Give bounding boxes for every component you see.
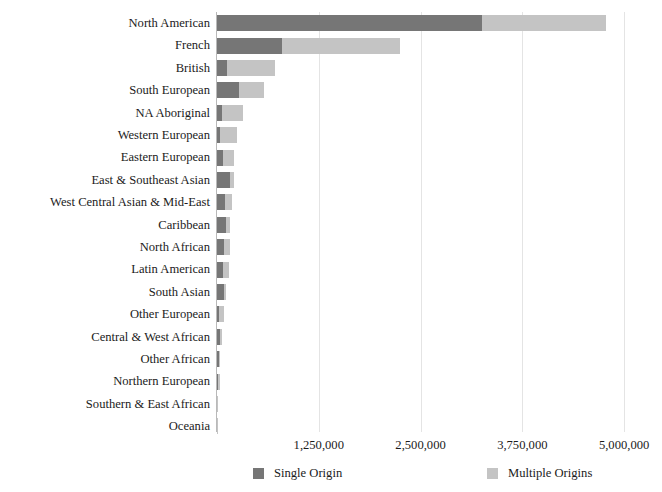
legend-item[interactable]: Multiple Origins [487, 462, 592, 484]
stacked-bar[interactable] [217, 127, 237, 143]
bar-segment-multiple-origins[interactable] [220, 329, 222, 345]
stacked-bar[interactable] [217, 329, 222, 345]
bar-segment-multiple-origins[interactable] [230, 172, 234, 188]
stacked-bar[interactable] [217, 194, 232, 210]
legend-label: Multiple Origins [508, 463, 592, 483]
stacked-bar[interactable] [217, 105, 243, 121]
category-label: East & Southeast Asian [10, 169, 210, 191]
stacked-bar[interactable] [217, 374, 220, 390]
stacked-bar[interactable] [217, 82, 264, 98]
bar-segment-single-origin[interactable] [217, 284, 224, 300]
bar-segment-multiple-origins[interactable] [239, 82, 264, 98]
category-label: Eastern European [10, 146, 210, 168]
bar-segment-multiple-origins[interactable] [226, 217, 230, 233]
chart-row: Eastern European [0, 146, 662, 168]
bar-segment-single-origin[interactable] [217, 194, 225, 210]
category-label: French [10, 34, 210, 56]
stacked-bar[interactable] [217, 239, 230, 255]
stacked-bar[interactable] [217, 60, 275, 76]
category-label: Other European [10, 303, 210, 325]
bar-segment-multiple-origins[interactable] [224, 239, 231, 255]
category-label: West Central Asian & Mid-East [10, 191, 210, 213]
bar-segment-multiple-origins[interactable] [225, 194, 233, 210]
bar-segment-single-origin[interactable] [217, 38, 282, 54]
bar-segment-single-origin[interactable] [217, 15, 482, 31]
chart-row: South European [0, 79, 662, 101]
chart-row: British [0, 57, 662, 79]
bar-segment-multiple-origins[interactable] [218, 374, 220, 390]
bar-segment-multiple-origins[interactable] [223, 150, 234, 166]
chart-row: Central & West African [0, 326, 662, 348]
bar-segment-multiple-origins[interactable] [220, 127, 236, 143]
stacked-bar[interactable] [217, 15, 606, 31]
chart-row: French [0, 34, 662, 56]
category-label: Caribbean [10, 214, 210, 236]
category-label: South European [10, 79, 210, 101]
bar-segment-multiple-origins[interactable] [219, 351, 220, 367]
bar-segment-multiple-origins[interactable] [227, 60, 275, 76]
bar-segment-multiple-origins[interactable] [219, 306, 223, 322]
bar-segment-single-origin[interactable] [217, 239, 224, 255]
legend-item[interactable]: Single Origin [253, 462, 342, 484]
stacked-bar[interactable] [217, 150, 234, 166]
category-label: Northern European [10, 370, 210, 392]
square-swatch-icon [253, 468, 264, 479]
bar-segment-multiple-origins[interactable] [222, 105, 243, 121]
category-label: Oceania [10, 415, 210, 437]
chart-row: South Asian [0, 281, 662, 303]
stacked-bar[interactable] [217, 284, 226, 300]
chart-row: Latin American [0, 258, 662, 280]
legend-label: Single Origin [274, 463, 342, 483]
chart-row: East & Southeast Asian [0, 169, 662, 191]
chart-row: Oceania [0, 415, 662, 437]
bar-segment-single-origin[interactable] [217, 60, 227, 76]
category-label: Southern & East African [10, 393, 210, 415]
chart-row: Other African [0, 348, 662, 370]
category-label: British [10, 57, 210, 79]
category-label: North African [10, 236, 210, 258]
bar-chart: North AmericanFrenchBritishSouth Europea… [0, 0, 662, 492]
chart-row: North American [0, 12, 662, 34]
x-axis-tick-labels: 1,250,0002,500,0003,750,0005,000,000 [0, 436, 662, 456]
category-label: Western European [10, 124, 210, 146]
chart-row: North African [0, 236, 662, 258]
bar-segment-multiple-origins[interactable] [224, 284, 226, 300]
chart-row: NA Aboriginal [0, 102, 662, 124]
stacked-bar[interactable] [217, 351, 220, 367]
bar-segment-multiple-origins[interactable] [282, 38, 400, 54]
chart-row: West Central Asian & Mid-East [0, 191, 662, 213]
category-label: Central & West African [10, 326, 210, 348]
chart-row: Western European [0, 124, 662, 146]
chart-row: Caribbean [0, 214, 662, 236]
chart-rows: North AmericanFrenchBritishSouth Europea… [0, 12, 662, 432]
stacked-bar[interactable] [217, 217, 230, 233]
chart-row: Other European [0, 303, 662, 325]
stacked-bar[interactable] [217, 172, 234, 188]
category-label: NA Aboriginal [10, 102, 210, 124]
category-label: North American [10, 12, 210, 34]
x-tick-label: 5,000,000 [554, 436, 662, 454]
bar-segment-multiple-origins[interactable] [482, 15, 607, 31]
category-label: South Asian [10, 281, 210, 303]
square-swatch-icon [487, 468, 498, 479]
bar-segment-multiple-origins[interactable] [223, 262, 229, 278]
bar-segment-single-origin[interactable] [217, 82, 239, 98]
chart-row: Southern & East African [0, 393, 662, 415]
category-label: Other African [10, 348, 210, 370]
stacked-bar[interactable] [217, 396, 218, 412]
stacked-bar[interactable] [217, 262, 229, 278]
category-label: Latin American [10, 258, 210, 280]
stacked-bar[interactable] [217, 38, 400, 54]
chart-row: Northern European [0, 370, 662, 392]
bar-segment-single-origin[interactable] [217, 172, 230, 188]
stacked-bar[interactable] [217, 306, 224, 322]
chart-legend: Single OriginMultiple Origins [0, 462, 662, 484]
bar-segment-single-origin[interactable] [217, 217, 226, 233]
